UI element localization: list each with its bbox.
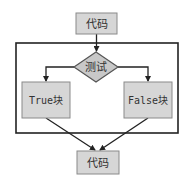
flowchart-canvas: 代码 测试 True块 False块 代码 (0, 0, 190, 189)
node-true-label: True块 (29, 95, 63, 106)
node-decision: 测试 (74, 52, 118, 82)
edge-decision-to-false (118, 67, 148, 81)
edge-true-to-bottom (46, 118, 95, 150)
edge-decision-to-true (46, 67, 74, 81)
node-top-code: 代码 (76, 13, 117, 34)
node-false-label: False块 (128, 95, 168, 106)
node-top-label: 代码 (86, 18, 108, 31)
node-decision-label: 测试 (85, 61, 107, 74)
node-bottom-code: 代码 (77, 151, 119, 174)
node-bottom-label: 代码 (87, 157, 109, 170)
node-true-block: True块 (22, 82, 70, 118)
node-false-block: False块 (124, 82, 172, 118)
edge-false-to-bottom (100, 118, 148, 150)
